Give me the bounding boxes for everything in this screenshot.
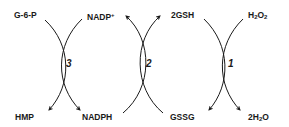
arc-g6p-to-hmp bbox=[45, 20, 66, 110]
label-nadp-plus: NADP+ bbox=[87, 10, 115, 22]
water-o: O bbox=[262, 112, 269, 122]
reaction-number-2: 2 bbox=[146, 59, 152, 69]
label-2gsh: 2GSH bbox=[171, 10, 194, 20]
reaction-number-1: 1 bbox=[228, 59, 234, 69]
arc-gsh-to-gssg bbox=[204, 19, 225, 110]
h2o2-sub2: 2 bbox=[264, 14, 267, 20]
label-g6p: G-6-P bbox=[14, 10, 37, 20]
arc-nadph-to-nadp bbox=[123, 16, 146, 113]
reaction-diagram bbox=[0, 0, 289, 127]
label-nadp-charge: + bbox=[111, 12, 115, 18]
label-hmp: HMP bbox=[15, 112, 34, 122]
label-2h2o: 2H2O bbox=[248, 112, 269, 124]
label-nadph: NADPH bbox=[82, 112, 112, 122]
water-2h: 2H bbox=[248, 112, 259, 122]
reaction-number-3: 3 bbox=[66, 59, 72, 69]
label-nadp-text: NADP bbox=[87, 12, 111, 22]
label-h2o2: H2O2 bbox=[248, 10, 267, 22]
label-gssg: GSSG bbox=[170, 112, 195, 122]
